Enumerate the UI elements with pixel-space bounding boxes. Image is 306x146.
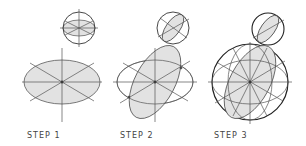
diagram-canvas <box>0 0 306 146</box>
step1-ellipse <box>22 48 102 122</box>
step2-figure <box>113 11 197 127</box>
step2-ellipses <box>113 37 197 126</box>
step2-label: STEP 2 <box>120 131 153 140</box>
step3-small-sphere <box>252 12 284 46</box>
step2-small-sphere <box>157 11 189 45</box>
step1-label: STEP 1 <box>27 131 60 140</box>
step3-figure <box>208 12 292 127</box>
step3-sphere <box>208 37 292 126</box>
step3-label: STEP 3 <box>214 131 247 140</box>
step1-figure <box>22 9 102 122</box>
step1-small-sphere <box>60 9 98 47</box>
